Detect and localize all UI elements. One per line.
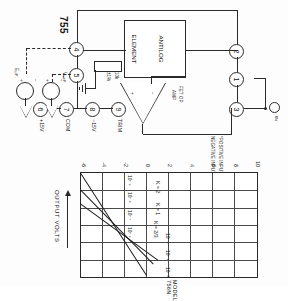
- wire-opamp-out: [142, 124, 143, 134]
- vref-polarity-minus: −: [58, 79, 63, 82]
- wire-vref-out: [51, 98, 52, 106]
- pin-label-trim: TRIM: [117, 119, 123, 132]
- xtick-label-1e-7: 10⁻⁷: [127, 210, 133, 220]
- esig-label: Eₛᵢꜰ: [13, 68, 18, 76]
- chart-model-label: MODEL 756N: [166, 280, 178, 301]
- vref-amp-body: [46, 106, 58, 117]
- dashed-ref-path: [27, 48, 71, 49]
- yaxis-title: OUTPUT VOLTS: [54, 190, 60, 243]
- esig-polarity-plus: +: [18, 79, 23, 82]
- wire-9-8: [100, 108, 113, 109]
- xtick-label-1e-5: 10⁻⁵: [165, 233, 171, 243]
- wire-fb-top: [231, 108, 232, 135]
- yaxis-arrow-head: [65, 190, 71, 196]
- pin-node-8: 8: [85, 102, 100, 117]
- dashed-ref-join: [52, 74, 53, 82]
- ytick-2: 2: [167, 152, 173, 167]
- xtick-label-1e-9: 10⁻⁹: [127, 175, 133, 186]
- ytick-6: 6: [211, 152, 217, 167]
- annotation-k-1: K = 1: [155, 203, 161, 215]
- transfer-function-chart: K = 2 K = 1 K = 2/3 10⁻⁹ 10⁻⁸ 10⁻⁷ 10⁻⁶ …: [46, 152, 264, 280]
- wire-inv-input: [151, 76, 152, 84]
- xtick-label-1e-6: 10⁻⁶: [127, 227, 133, 237]
- wire-out-left: [265, 78, 266, 109]
- wire-5-right: [77, 81, 78, 108]
- wire-ground-stem: [86, 88, 96, 89]
- gridline-v-1e-8: [81, 190, 257, 191]
- wire-out-up: [244, 108, 266, 109]
- opamp-minus-input: −: [149, 92, 154, 95]
- dashed-bottom: [26, 48, 27, 74]
- ground-bar-2: [82, 85, 83, 92]
- xtick-label-1e-4: 10⁻⁴: [165, 250, 171, 261]
- model-number-755: 755: [58, 16, 68, 34]
- opamp-plus-input: +: [129, 92, 134, 95]
- antilog-label-line1: ANTILOG: [158, 21, 185, 77]
- pin-node-9: 9: [111, 102, 126, 117]
- pin-node-7: 7: [59, 102, 74, 117]
- resistor-10k: [94, 61, 122, 72]
- ground-bar-1: [85, 83, 86, 94]
- wire-2-1: [237, 57, 238, 72]
- wire-inv-up: [152, 76, 186, 77]
- wire-antilog-bottom: [78, 50, 126, 51]
- pin-label-pos15v: +15V: [39, 119, 45, 132]
- wire-opamp-fb: [143, 134, 232, 135]
- resistor-value-line1: 10k: [113, 72, 118, 79]
- ytick-neg6: -6: [81, 152, 87, 167]
- yaxis-arrow-line: [67, 196, 68, 248]
- vref-polarity-plus: +: [44, 79, 49, 82]
- ground-bar-3: [79, 87, 80, 90]
- wire-ground-h: [95, 70, 96, 88]
- gridline-v-1e-7: [81, 208, 257, 209]
- wire-4-5: [77, 55, 78, 68]
- antilog-label-line2: ELEMENT: [131, 21, 158, 77]
- ytick-neg2: -2: [123, 152, 129, 167]
- wire-out-drop: [254, 78, 266, 79]
- output-terminal: [269, 102, 280, 113]
- wire-1-3: [237, 85, 238, 102]
- fet-op-amp-body: [121, 83, 165, 123]
- opamp-label-line1: FET OP: [177, 86, 182, 103]
- xtick-label-1e-8: 10⁻⁸: [127, 192, 133, 203]
- schematic-diagram: 2 1 3 eₒ ANTILOG ELEMENT − +: [6, 6, 282, 146]
- pin-label-com: COM: [65, 119, 71, 131]
- ytick-8: 8: [233, 152, 239, 167]
- wire-esig-out: [25, 98, 26, 106]
- annotation-k-2: K = 2: [155, 181, 161, 193]
- ytick-4: 4: [189, 152, 195, 167]
- resistor-value-line2: ±1%: [105, 72, 110, 81]
- output-label: eₒ: [274, 116, 280, 121]
- ytick-0: 0: [145, 152, 151, 167]
- wire-left-bus: [78, 10, 238, 11]
- ytick-10: 10: [255, 152, 261, 167]
- esig-polarity-minus: −: [32, 79, 37, 82]
- pin-label-neg15v: −15V: [91, 119, 97, 132]
- annotation-k-2-3: K = 2/3: [153, 221, 159, 238]
- wire-2-to-antilog: [186, 50, 238, 51]
- curve-k-1: [80, 190, 154, 265]
- opamp-label-line2: AMP: [170, 90, 175, 100]
- junction-dot-out: [264, 107, 267, 110]
- antilog-element-block: ANTILOG ELEMENT: [124, 20, 186, 78]
- esig-amp-body: [20, 106, 32, 117]
- chart-plot-area: K = 2 K = 1 K = 2/3 10⁻⁹ 10⁻⁸ 10⁻⁷ 10⁻⁶ …: [80, 172, 258, 278]
- ytick-neg4: -4: [101, 152, 107, 167]
- xtick-label-1e-3: 10⁻³: [165, 267, 171, 277]
- wire-8-7: [74, 108, 87, 109]
